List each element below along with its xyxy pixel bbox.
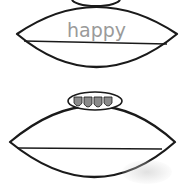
trace-word: happy (67, 21, 126, 40)
laces-oval (72, 0, 120, 6)
smudge-mark (122, 160, 172, 184)
writing-line (24, 41, 167, 44)
worksheet-canvas: happy (0, 0, 193, 184)
writing-line (17, 148, 162, 149)
